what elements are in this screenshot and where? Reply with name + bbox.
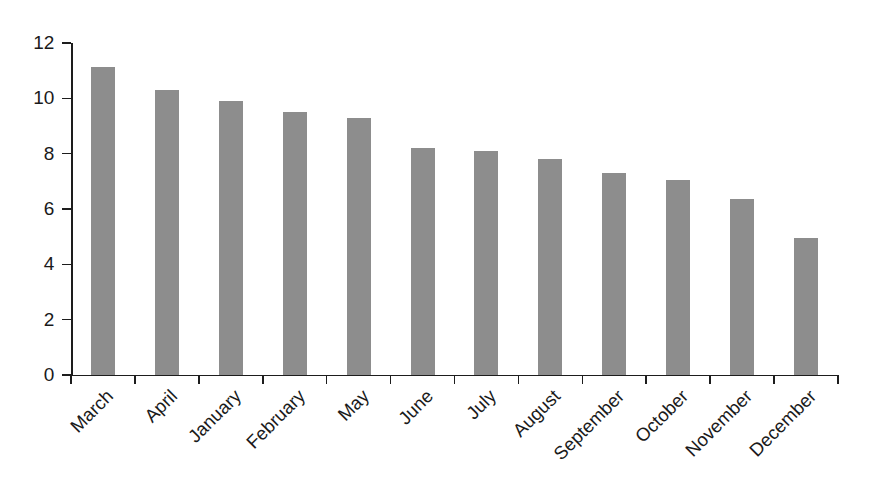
y-axis-tick-label: 10: [10, 88, 54, 107]
y-axis-tick-label-text: 8: [20, 144, 54, 163]
bar: [283, 112, 307, 375]
x-axis-tick: [645, 375, 647, 384]
x-axis-label-text: January: [184, 386, 244, 446]
y-axis-tick-label-text: 0: [20, 365, 54, 384]
bar: [155, 90, 179, 375]
y-axis-tick-label: 8: [10, 144, 54, 163]
y-axis-tick: [62, 208, 71, 210]
bar: [794, 238, 818, 375]
x-axis-tick: [454, 375, 456, 384]
x-axis-tick: [518, 375, 520, 384]
x-axis-tick: [773, 375, 775, 384]
x-axis-tick: [326, 375, 328, 384]
y-axis-tick-label-text: 10: [20, 88, 54, 107]
y-axis-tick: [62, 42, 71, 44]
y-axis-tick: [62, 319, 71, 321]
x-axis-tick: [837, 375, 839, 384]
x-axis-tick: [709, 375, 711, 384]
bar: [411, 148, 435, 375]
x-axis-label-text: July: [463, 386, 500, 423]
bar: [219, 101, 243, 375]
y-axis-tick-label-text: 6: [20, 199, 54, 218]
x-axis-label-text: December: [746, 386, 820, 460]
bar: [474, 151, 498, 375]
bar: [602, 173, 626, 375]
x-axis-tick: [390, 375, 392, 384]
bar: [538, 159, 562, 375]
y-axis-line: [71, 43, 73, 376]
x-axis-label-text: June: [394, 386, 436, 428]
y-axis-tick-label-text: 2: [20, 310, 54, 329]
y-axis-tick-label: 6: [10, 199, 54, 218]
bar-chart: 024681012 MarchAprilJanuaryFebruaryMayJu…: [0, 0, 878, 491]
y-axis-tick: [62, 98, 71, 100]
x-axis-label-text: April: [141, 386, 181, 426]
y-axis-tick-label: 4: [10, 254, 54, 273]
y-axis-tick-label: 12: [10, 33, 54, 52]
y-axis-tick-label: 0: [10, 365, 54, 384]
y-axis-tick-label-text: 12: [20, 33, 54, 52]
y-axis-tick-label: 2: [10, 310, 54, 329]
x-axis-tick: [134, 375, 136, 384]
x-axis-tick: [262, 375, 264, 384]
bar: [91, 67, 115, 375]
x-axis-label-text: October: [632, 386, 692, 446]
x-axis-tick: [582, 375, 584, 384]
bar: [347, 118, 371, 375]
y-axis-tick-label-text: 4: [20, 254, 54, 273]
bar: [666, 180, 690, 375]
y-axis-tick: [62, 153, 71, 155]
y-axis-tick: [62, 264, 71, 266]
x-axis-label-text: August: [510, 386, 564, 440]
x-axis-tick: [70, 375, 72, 384]
x-axis-label-text: May: [334, 386, 372, 424]
x-axis-label-text: February: [242, 386, 308, 452]
bar: [730, 199, 754, 375]
x-axis-tick: [198, 375, 200, 384]
x-axis-label-text: March: [67, 386, 117, 436]
